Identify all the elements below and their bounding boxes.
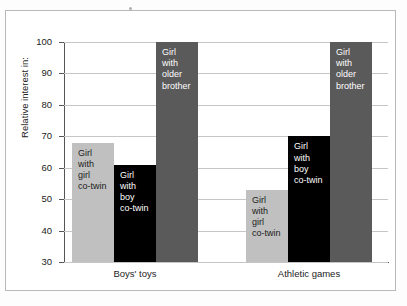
bar: Girl with girl co-twin: [246, 190, 288, 262]
y-tick-label: 80: [26, 100, 52, 110]
y-tick-label: 90: [26, 68, 52, 78]
bar: Girl with boy co-twin: [114, 165, 156, 262]
bar-label: Girl with older brother: [162, 47, 191, 92]
bar: Girl with older brother: [330, 42, 372, 262]
x-axis-category-label: Athletic games: [226, 268, 392, 279]
y-axis-title: Relative interest in:: [19, 28, 30, 168]
plot-area: Girl with girl co-twinGirl with boy co-t…: [64, 42, 388, 262]
bar-label: Girl with girl co-twin: [252, 195, 281, 240]
y-tick-label: 100: [26, 37, 52, 47]
y-tick-label: 60: [26, 163, 52, 173]
y-tick-label: 50: [26, 194, 52, 204]
y-tick-label: 40: [26, 226, 52, 236]
bar: Girl with boy co-twin: [288, 136, 330, 262]
bar: Girl with older brother: [156, 42, 198, 262]
y-tick-label: 30: [26, 257, 52, 267]
chart-screenshot: Relative interest in: 30405060708090100 …: [0, 0, 407, 306]
y-tick-label: 70: [26, 131, 52, 141]
bar-label: Girl with girl co-twin: [78, 148, 107, 193]
bar-label: Girl with older brother: [336, 47, 365, 92]
x-axis-category-label: Boys' toys: [52, 268, 218, 279]
bar-label: Girl with boy co-twin: [120, 170, 149, 215]
gridline: [64, 262, 388, 263]
bar: Girl with girl co-twin: [72, 143, 114, 262]
bar-label: Girl with boy co-twin: [294, 141, 323, 186]
